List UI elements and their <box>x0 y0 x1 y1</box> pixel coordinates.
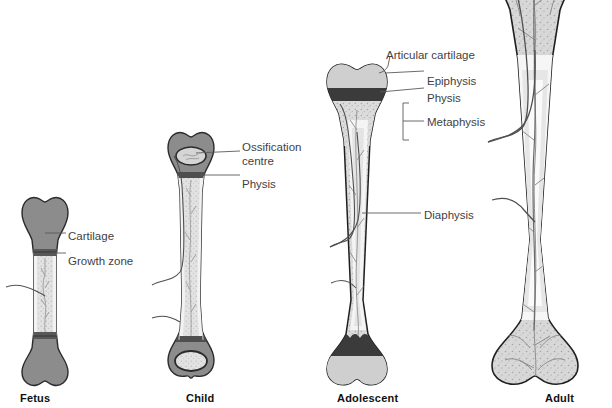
adolescent-physis-distal-scallop <box>320 334 390 338</box>
label-cartilage: Cartilage <box>68 229 114 243</box>
bone-development-figure: Cartilage Growth zone Ossification centr… <box>0 0 612 408</box>
label-physis-child: Physis <box>242 177 276 191</box>
bone-child <box>152 133 214 378</box>
bone-fetus <box>6 198 68 386</box>
label-epiphysis: Epiphysis <box>427 74 476 88</box>
bone-adult <box>488 0 578 384</box>
label-diaphysis: Diaphysis <box>424 208 474 222</box>
caption-adolescent: Adolescent <box>337 392 398 404</box>
caption-adult: Adult <box>545 392 574 404</box>
adolescent-physis-distal <box>318 338 398 356</box>
fetus-growth-zone-proximal <box>33 249 57 256</box>
child-nutrient-vessel-lower <box>152 316 180 322</box>
bone-adolescent <box>318 58 398 390</box>
fetus-growth-zone-distal <box>33 332 57 339</box>
label-ossification-centre-line2: centre <box>242 154 274 168</box>
bone-diagram-svg <box>0 0 612 408</box>
leader-epiphysis <box>385 71 424 73</box>
child-physis-distal <box>176 336 206 342</box>
label-physis-adolescent: Physis <box>427 91 461 105</box>
child-ossification-centre-distal <box>175 351 207 371</box>
metaphysis-bracket <box>403 103 409 140</box>
caption-child: Child <box>186 392 215 404</box>
label-articular-cartilage: Articular cartilage <box>386 48 475 62</box>
label-ossification-centre-line1: Ossification <box>242 140 301 154</box>
label-metaphysis: Metaphysis <box>427 115 485 129</box>
label-growth-zone: Growth zone <box>68 254 133 268</box>
adolescent-epiphysis-proximal <box>320 58 396 88</box>
caption-fetus: Fetus <box>20 392 50 404</box>
